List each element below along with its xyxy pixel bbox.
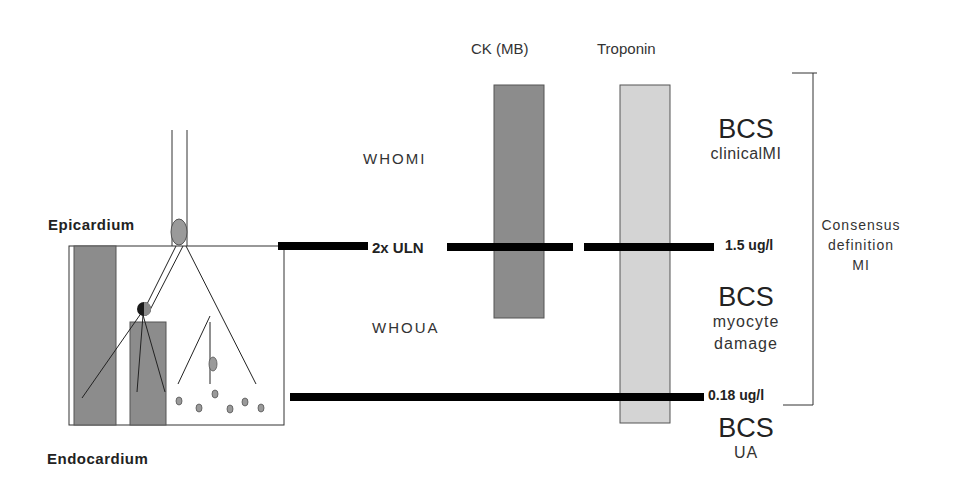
- consensus-line1: Consensus: [816, 215, 906, 235]
- ck-mb-header: CK (MB): [471, 40, 529, 57]
- bcs-subtitle: UA: [686, 442, 806, 464]
- consensus-line3: MI: [816, 255, 906, 275]
- lower-threshold-label: 0.18 ug/l: [708, 387, 764, 403]
- ck-mb-bar: [494, 85, 544, 318]
- endocardium-label: Endocardium: [47, 450, 148, 467]
- coronary-vessel: [171, 130, 187, 246]
- bcs-ua: BCS UA: [686, 414, 806, 464]
- troponin-bar: [620, 85, 670, 423]
- bcs-title: BCS: [686, 283, 806, 311]
- who-threshold-label: 2x ULN: [372, 239, 424, 256]
- bcs-title: BCS: [686, 115, 806, 143]
- epicardium-label: Epicardium: [48, 216, 135, 233]
- consensus-definition-label: Consensus definition MI: [816, 215, 906, 275]
- troponin-header: Troponin: [597, 40, 656, 57]
- transmural-infarct-region: [74, 246, 116, 425]
- bcs-subtitle-line2: damage: [686, 333, 806, 355]
- bcs-subtitle-line1: myocyte: [686, 311, 806, 333]
- diagram-graphics: [0, 0, 956, 488]
- bcs-clinical-mi: BCS clinicalMI: [686, 115, 806, 165]
- who-ua-label: WHOUA: [372, 319, 440, 336]
- bcs-subtitle: clinicalMI: [686, 143, 806, 165]
- subendocardial-infarct-region: [130, 322, 166, 425]
- bcs-title: BCS: [686, 414, 806, 442]
- bcs-myocyte-damage: BCS myocyte damage: [686, 283, 806, 355]
- microemboli-dots: [176, 390, 264, 413]
- who-mi-label: WHOMI: [363, 150, 426, 167]
- consensus-line2: definition: [816, 235, 906, 255]
- upper-threshold-label: 1.5 ug/l: [725, 237, 773, 253]
- plaque-ellipse: [171, 219, 187, 245]
